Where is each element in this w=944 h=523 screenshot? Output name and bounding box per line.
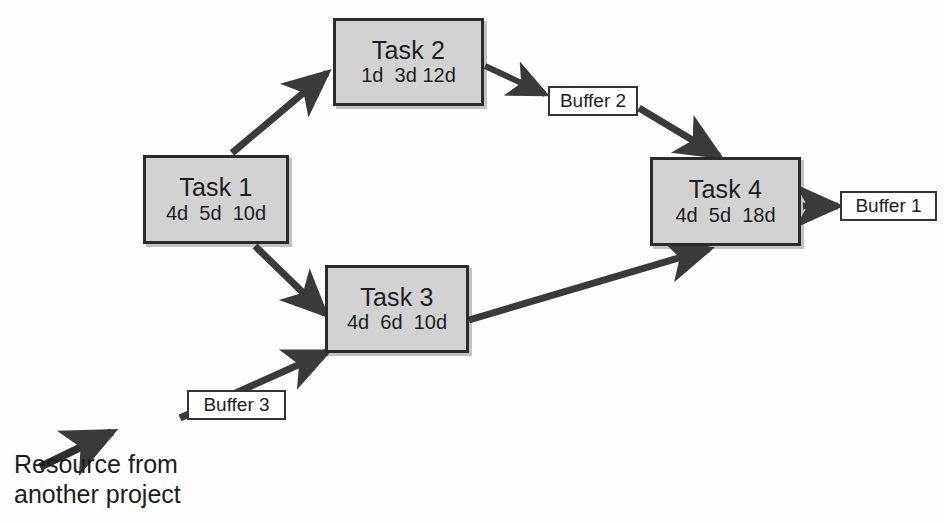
resource-caption: Resource from another project	[14, 450, 181, 509]
node-task2-durations: 1d 3d 12d	[361, 64, 456, 87]
edge-task1-to-task2	[232, 73, 327, 153]
edge-task2-to-buffer2	[485, 66, 545, 94]
node-task4[interactable]: Task 4 4d 5d 18d	[650, 157, 801, 246]
node-task3-title: Task 3	[360, 284, 433, 310]
node-task4-title: Task 4	[689, 176, 762, 202]
buffer-3[interactable]: Buffer 3	[187, 390, 286, 420]
node-task1-durations: 4d 5d 10d	[166, 202, 266, 225]
edge-task1-to-task3	[255, 246, 325, 314]
edge-buffer2-to-task4	[639, 108, 719, 156]
node-task2[interactable]: Task 2 1d 3d 12d	[333, 18, 484, 106]
node-task3-durations: 4d 6d 10d	[347, 311, 447, 334]
buffer-2[interactable]: Buffer 2	[548, 86, 638, 116]
node-task4-durations: 4d 5d 18d	[675, 204, 775, 227]
buffer-3-label: Buffer 3	[199, 394, 273, 416]
node-task2-title: Task 2	[372, 37, 445, 63]
buffer-2-label: Buffer 2	[556, 90, 630, 112]
buffer-1[interactable]: Buffer 1	[840, 191, 937, 221]
node-task1[interactable]: Task 1 4d 5d 10d	[143, 155, 289, 244]
node-task1-title: Task 1	[179, 174, 252, 200]
diagram-canvas: Task 1 4d 5d 10d Task 2 1d 3d 12d Task 3…	[0, 0, 944, 523]
buffer-1-label: Buffer 1	[851, 195, 925, 217]
edge-task3-to-task4	[469, 249, 709, 320]
node-task3[interactable]: Task 3 4d 6d 10d	[325, 265, 469, 353]
